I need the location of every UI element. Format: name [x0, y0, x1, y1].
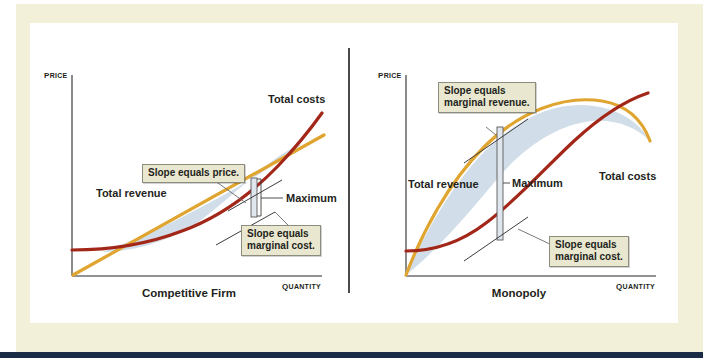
frame-bottom-strip — [0, 352, 703, 358]
callout-slope-equals-marginal-cost-competitive: Slope equals marginal cost. — [241, 225, 321, 256]
total-revenue-label-competitive: Total revenue — [96, 187, 167, 200]
total-costs-label-competitive: Total costs — [268, 93, 325, 106]
panel-monopoly: Price Quantity Total revenue Total costs… — [360, 23, 678, 323]
callout-slope-equals-marginal-revenue: Slope equals marginal revenue. — [438, 82, 536, 113]
callout-line: Slope equals — [247, 228, 315, 240]
leader-slope-marginal-revenue-monopoly — [486, 127, 496, 135]
figure-root: Price Quantity Total costs Total revenue… — [0, 0, 703, 358]
callout-line: Slope equals — [555, 239, 623, 251]
y-axis-label-competitive: Price — [44, 68, 68, 81]
callout-line: marginal revenue. — [444, 97, 530, 109]
callout-slope-equals-marginal-cost-monopoly: Slope equals marginal cost. — [549, 236, 629, 267]
panel-title-monopoly: Monopoly — [360, 287, 678, 299]
callout-slope-equals-price: Slope equals price. — [142, 164, 245, 183]
tangent-marginal-cost-monopoly — [464, 217, 528, 261]
panel-title-competitive-firm: Competitive Firm — [30, 287, 348, 299]
total-costs-label-monopoly: Total costs — [599, 170, 656, 183]
callout-line: marginal cost. — [555, 251, 623, 263]
panel-competitive-firm: Price Quantity Total costs Total revenue… — [30, 23, 348, 323]
frame-top-white — [0, 0, 703, 4]
callout-line: Slope equals price. — [148, 167, 239, 179]
callout-line: marginal cost. — [247, 240, 315, 252]
frame-left-white — [0, 0, 16, 352]
panel-divider — [348, 48, 350, 293]
maximum-label-monopoly: Maximum — [512, 177, 563, 190]
y-axis-label-monopoly: Price — [378, 68, 402, 81]
total-revenue-label-monopoly: Total revenue — [408, 178, 479, 191]
leader-slope-marginal-cost-monopoly — [518, 229, 552, 245]
maximum-gap-bar-monopoly — [497, 127, 503, 240]
maximum-label-competitive: Maximum — [286, 192, 337, 205]
callout-line: Slope equals — [444, 85, 530, 97]
